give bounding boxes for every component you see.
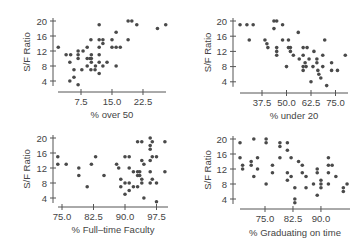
data-point <box>102 174 106 178</box>
data-point <box>292 53 296 57</box>
data-point <box>148 144 152 148</box>
data-point <box>132 170 136 174</box>
data-point <box>148 159 152 163</box>
data-point <box>97 53 101 57</box>
y-tick-label: 4 <box>222 76 227 87</box>
data-point <box>309 80 313 84</box>
y-tick-label: 20 <box>36 16 47 27</box>
data-point <box>327 171 331 175</box>
x-tick-label: 90.0 <box>116 211 135 222</box>
data-point <box>325 84 329 88</box>
panel-pct-over-50: 48121620S/F Ratio7.515.022.5% over 50 <box>21 16 168 121</box>
x-tick-label: 97.5 <box>147 211 166 222</box>
data-point <box>90 57 94 61</box>
data-point <box>286 148 290 152</box>
data-point <box>85 185 89 189</box>
data-point <box>156 27 160 31</box>
data-point <box>132 185 136 189</box>
data-point <box>115 162 119 166</box>
x-tick-label: 75.0 <box>53 211 72 222</box>
data-point <box>97 60 101 64</box>
data-point <box>94 155 98 159</box>
data-point <box>275 53 279 57</box>
x-tick-label: 82.5 <box>84 211 103 222</box>
data-point <box>344 53 348 57</box>
data-point <box>151 140 155 144</box>
data-point <box>275 19 279 23</box>
y-tick-label: 12 <box>36 46 47 57</box>
data-point <box>271 163 275 167</box>
y-tick-label: 4 <box>42 76 47 87</box>
data-point <box>77 166 81 170</box>
data-point <box>76 57 80 61</box>
data-point <box>123 181 127 185</box>
data-point <box>293 186 297 190</box>
data-point <box>148 136 152 140</box>
data-point <box>315 171 319 175</box>
y-tick-label: 16 <box>36 148 47 159</box>
data-point <box>319 76 323 80</box>
data-point <box>289 156 293 160</box>
data-point <box>275 46 279 50</box>
data-point <box>76 53 80 57</box>
data-point <box>135 23 139 27</box>
data-point <box>301 171 305 175</box>
data-point <box>114 64 118 68</box>
data-point <box>301 46 305 50</box>
y-axis-label: S/F Ratio <box>202 33 213 73</box>
x-tick-label: 82.5 <box>284 213 303 224</box>
data-point <box>118 45 122 49</box>
data-point <box>304 186 308 190</box>
y-tick-label: 20 <box>216 134 227 145</box>
data-point <box>126 38 130 42</box>
data-point <box>241 167 245 171</box>
data-point <box>321 65 325 69</box>
data-point <box>238 23 242 27</box>
x-tick-label: 75.0 <box>256 213 275 224</box>
data-point <box>296 31 300 35</box>
data-point <box>127 166 131 170</box>
x-tick-label: 75.0 <box>326 97 345 108</box>
data-point <box>278 141 282 145</box>
data-point <box>286 171 290 175</box>
data-point <box>342 190 346 194</box>
data-point <box>110 45 114 49</box>
data-point <box>342 186 346 190</box>
y-tick-label: 8 <box>42 178 47 189</box>
data-point <box>140 181 144 185</box>
y-tick-label: 12 <box>216 164 227 175</box>
data-point <box>136 140 140 144</box>
data-point <box>301 163 305 167</box>
data-point <box>289 46 293 50</box>
y-tick-label: 20 <box>36 133 47 144</box>
data-point <box>303 61 307 65</box>
data-point <box>101 42 105 46</box>
data-point <box>81 49 85 53</box>
data-point <box>89 38 93 42</box>
data-point <box>327 163 331 167</box>
data-point <box>278 145 282 149</box>
data-point <box>93 68 97 72</box>
x-tick-label: 90.0 <box>312 213 331 224</box>
data-point <box>305 46 309 50</box>
data-point <box>97 72 101 76</box>
data-point <box>56 162 60 166</box>
panel-pct-fulltime-faculty: 48121620S/F Ratio75.082.590.097.5% Full–… <box>21 133 168 236</box>
data-point <box>286 141 290 145</box>
data-point <box>140 140 144 144</box>
data-point <box>319 186 323 190</box>
data-point <box>117 166 121 170</box>
data-point <box>317 72 321 76</box>
data-point <box>293 197 297 201</box>
y-tick-label: 12 <box>216 46 227 57</box>
data-point <box>110 38 114 42</box>
data-point <box>119 177 123 181</box>
data-point <box>307 57 311 61</box>
data-point <box>148 181 152 185</box>
data-point <box>126 19 130 23</box>
data-point <box>90 60 94 64</box>
data-point <box>275 50 279 54</box>
data-point <box>140 159 144 163</box>
panel-pct-under-20: 48121620S/F Ratio37.550.062.575.0% under… <box>202 16 348 122</box>
data-point <box>297 57 301 61</box>
